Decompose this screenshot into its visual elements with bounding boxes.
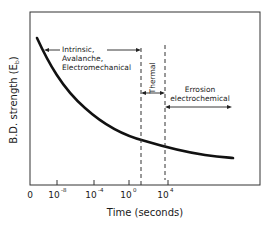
- svg-text:4: 4: [170, 187, 174, 193]
- svg-text:-4: -4: [98, 187, 104, 193]
- svg-text:10: 10: [157, 190, 169, 200]
- x-ticks: [57, 180, 168, 185]
- x-tick-4: 10 4: [157, 187, 174, 200]
- region-label-thermal: Thermal: [148, 63, 157, 95]
- region-label-erosion-line2: electrochemical: [170, 94, 230, 103]
- svg-text:10: 10: [85, 190, 97, 200]
- svg-text:B.D. strength (Eb): B.D. strength (Eb): [8, 56, 20, 143]
- x-tick-0: 0: [27, 190, 33, 200]
- x-tick-2: 10 -4: [85, 187, 104, 200]
- x-axis-label: Time (seconds): [106, 207, 183, 218]
- svg-text:-8: -8: [61, 187, 67, 193]
- svg-text:10: 10: [120, 190, 132, 200]
- erosion-arrow: [165, 105, 232, 109]
- region-label-erosion-line1: Errosion: [185, 85, 216, 94]
- breakdown-strength-chart: 0 10 -8 10 -4 10 0 10 4 Time (seconds) B…: [0, 0, 274, 227]
- region-label-intrinsic-line2: Avalanche,: [62, 54, 103, 63]
- y-axis-label: B.D. strength (Eb): [8, 56, 20, 143]
- svg-text:10: 10: [48, 190, 60, 200]
- svg-text:0: 0: [133, 187, 137, 193]
- svg-text:Thermal: Thermal: [148, 63, 157, 95]
- region-label-intrinsic-line1: Intrinsic,: [62, 45, 94, 54]
- x-tick-1: 10 -8: [48, 187, 67, 200]
- region-label-intrinsic-line3: Electromechanical: [62, 63, 131, 72]
- x-tick-3: 10 0: [120, 187, 137, 200]
